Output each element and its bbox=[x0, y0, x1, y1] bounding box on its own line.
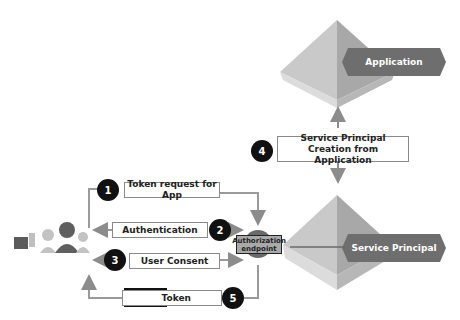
authorization-endpoint-label: Authorization endpoint bbox=[236, 235, 282, 254]
application-label: Application bbox=[348, 48, 440, 76]
step-1-badge: 1 bbox=[97, 179, 119, 201]
step-3-label: User Consent bbox=[129, 253, 220, 269]
users-icon bbox=[14, 222, 90, 253]
step-4-label: Service Principal Creation from Applicat… bbox=[277, 136, 409, 162]
step-4-badge: 4 bbox=[251, 140, 273, 162]
step-2-badge: 2 bbox=[209, 219, 231, 241]
service-principal-label: Service Principal bbox=[348, 234, 440, 262]
step-5-label: Token bbox=[122, 290, 222, 306]
step-2-label: Authentication bbox=[112, 222, 208, 238]
step-5-badge: 5 bbox=[222, 287, 244, 309]
step-3-badge: 3 bbox=[104, 249, 126, 271]
step-1-label: Token request for App bbox=[124, 182, 220, 198]
